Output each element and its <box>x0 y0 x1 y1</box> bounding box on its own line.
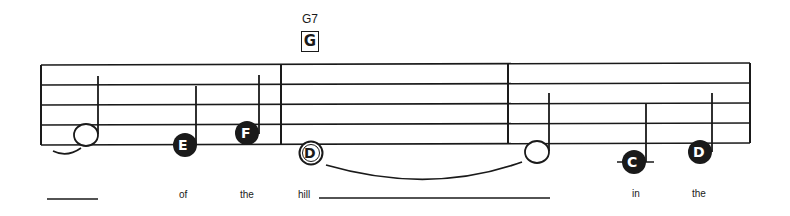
note-D-hollow <box>300 142 523 180</box>
lyric-word: hill <box>298 189 310 200</box>
chord-diagram-box: G <box>301 31 319 52</box>
half-note <box>53 76 98 154</box>
note-letter-D-hollow: D <box>304 145 316 161</box>
note-letter-C: C <box>627 154 637 170</box>
note-letter-E: E <box>178 137 188 153</box>
tie-arc <box>53 148 81 154</box>
note-letter-D: D <box>693 144 705 160</box>
lyric-word: the <box>692 188 706 199</box>
note-letter-F: F <box>241 125 251 141</box>
chord-name: G7 <box>302 12 318 26</box>
lyric-word: in <box>632 188 640 199</box>
lyric-word: the <box>240 189 254 200</box>
lyric-word: of <box>179 189 187 200</box>
tie-arc <box>326 162 522 179</box>
staff-lines <box>41 63 750 145</box>
music-staff <box>0 0 790 216</box>
